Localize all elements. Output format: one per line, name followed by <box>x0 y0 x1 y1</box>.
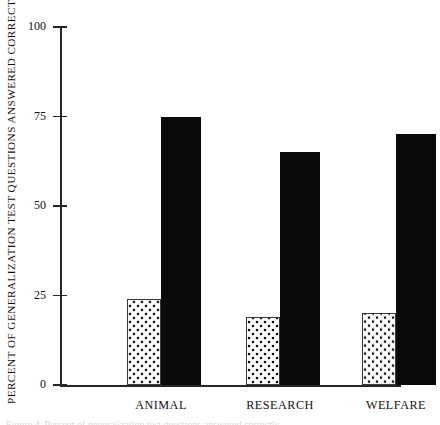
bar-animal-posttest <box>161 117 201 386</box>
caption-sliver: Figure 4. Percent of generalization test… <box>6 419 406 425</box>
category-label-welfare: WELFARE <box>336 398 440 413</box>
y-tick-50 <box>53 205 67 207</box>
y-axis-tick-labels: 0255075100 <box>2 27 46 385</box>
plot-area: 0255075100 <box>60 27 401 385</box>
y-tick-25 <box>53 295 67 297</box>
bar-research-posttest <box>280 152 320 385</box>
y-tick-label-0: 0 <box>40 377 46 392</box>
bar-animal-pretest <box>127 299 161 385</box>
y-tick-100 <box>53 26 67 28</box>
y-tick-label-75: 75 <box>34 109 46 124</box>
bar-welfare-posttest <box>396 134 436 385</box>
category-label-research: RESEARCH <box>220 398 340 413</box>
bar-welfare-pretest <box>362 313 396 385</box>
y-tick-label-25: 25 <box>34 288 46 303</box>
y-tick-0 <box>53 384 67 386</box>
y-tick-label-50: 50 <box>34 198 46 213</box>
y-tick-75 <box>53 116 67 118</box>
category-label-animal: ANIMAL <box>101 398 221 413</box>
x-axis-line <box>60 385 401 387</box>
bar-research-pretest <box>246 317 280 385</box>
y-tick-label-100: 100 <box>28 19 46 34</box>
